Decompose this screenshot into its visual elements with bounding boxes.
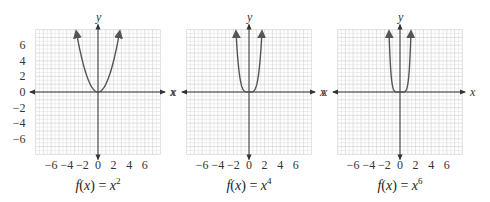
x-tick-label: −4 xyxy=(211,158,224,172)
chart-canvas: xy−6−4−202466420−2−4−6f(x) = x2xxy−6−4−2… xyxy=(0,0,490,202)
x-tick-label: 6 xyxy=(444,158,450,172)
y-tick-label: 2 xyxy=(20,69,26,83)
x-tick-label: 2 xyxy=(262,158,268,172)
x-tick-label: 6 xyxy=(142,158,148,172)
y-axis-label: y xyxy=(95,10,102,24)
y-tick-label: 0 xyxy=(20,85,26,99)
x-tick-label: 0 xyxy=(95,158,101,172)
graph-panel-3: xxy−6−4−20246f(x) = x6 xyxy=(321,10,476,194)
y-tick-labels: 6420−2−4−6 xyxy=(13,38,26,146)
y-axis-label: y xyxy=(246,10,253,24)
function-caption: f(x) = x4 xyxy=(226,176,272,194)
x-tick-label: −4 xyxy=(362,158,375,172)
x-axis-label-left: x xyxy=(321,85,328,99)
graph-panel-2: xxy−6−4−20246f(x) = x4 xyxy=(170,10,326,194)
graph-panel-1: xy−6−4−202466420−2−4−6f(x) = x2 xyxy=(13,10,176,194)
x-tick-labels: −6−4−20246 xyxy=(347,158,450,172)
x-tick-label: 4 xyxy=(126,158,132,172)
x-tick-label: −6 xyxy=(347,158,360,172)
x-tick-labels: −6−4−20246 xyxy=(45,158,148,172)
x-tick-labels: −6−4−20246 xyxy=(196,158,299,172)
x-tick-label: −2 xyxy=(227,158,240,172)
function-caption: f(x) = x2 xyxy=(75,176,120,194)
x-tick-label: −2 xyxy=(378,158,391,172)
y-axis-label: y xyxy=(397,10,404,24)
x-tick-label: 0 xyxy=(246,158,252,172)
x-tick-label: −6 xyxy=(196,158,209,172)
x-tick-label: 6 xyxy=(293,158,299,172)
x-tick-label: 2 xyxy=(111,158,117,172)
y-tick-label: −4 xyxy=(13,116,26,130)
y-tick-label: −6 xyxy=(13,132,26,146)
x-tick-label: −6 xyxy=(45,158,58,172)
y-tick-label: 4 xyxy=(20,54,26,68)
x-tick-label: −4 xyxy=(60,158,73,172)
x-tick-label: 4 xyxy=(428,158,434,172)
x-tick-label: 0 xyxy=(397,158,403,172)
x-tick-label: 4 xyxy=(277,158,283,172)
y-tick-label: −2 xyxy=(13,101,26,115)
function-caption: f(x) = x6 xyxy=(377,176,423,194)
x-axis-label-left: x xyxy=(170,85,177,99)
x-tick-label: 2 xyxy=(413,158,419,172)
x-axis: x xyxy=(30,85,176,99)
y-tick-label: 6 xyxy=(20,38,26,52)
x-tick-label: −2 xyxy=(76,158,89,172)
x-axis-label: x xyxy=(469,85,476,99)
